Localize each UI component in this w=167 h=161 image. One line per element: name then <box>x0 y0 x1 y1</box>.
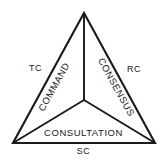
corner-label-tc: TC <box>29 64 42 73</box>
sector-label-consultation: CONSULTATION <box>0 128 167 138</box>
corner-label-sc: SC <box>0 147 167 156</box>
triangle-diagram: COMMAND CONSENSUS CONSULTATION TC RC SC <box>0 0 167 161</box>
corner-label-rc: RC <box>127 65 141 74</box>
